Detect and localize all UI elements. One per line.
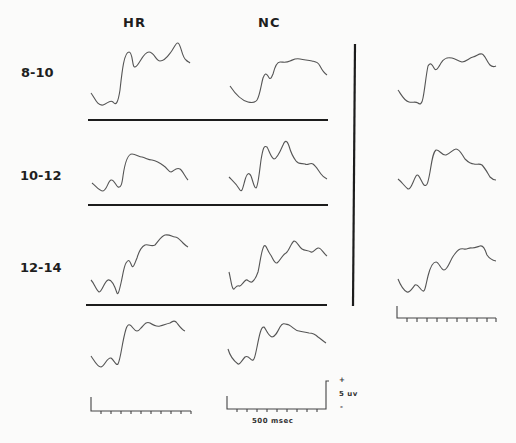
trace-right-10-12 xyxy=(398,149,496,189)
trace-hr-10-12 xyxy=(92,154,188,191)
time-scale-right-ticks xyxy=(407,318,496,322)
trace-nc-12-14 xyxy=(229,241,327,289)
column-divider xyxy=(353,44,355,306)
trace-nc-bottom xyxy=(228,324,326,364)
trace-nc-10-12 xyxy=(229,141,327,190)
amplitude-scale-label: 5 uv xyxy=(339,390,358,398)
amplitude-plus: + xyxy=(339,376,345,384)
time-scale-label: 500 msec xyxy=(252,417,293,425)
trace-hr-8-10 xyxy=(91,43,190,105)
trace-hr-12-14 xyxy=(91,235,188,294)
trace-right-8-10 xyxy=(398,54,496,104)
trace-hr-bottom xyxy=(91,321,185,367)
waveform-figure xyxy=(0,0,516,443)
amplitude-minus: - xyxy=(340,403,343,411)
time-scale-hr xyxy=(91,397,191,411)
time-scale-nc xyxy=(227,381,329,409)
trace-right-12-14 xyxy=(398,246,496,292)
trace-nc-8-10 xyxy=(230,59,327,103)
time-scale-right xyxy=(397,306,496,318)
